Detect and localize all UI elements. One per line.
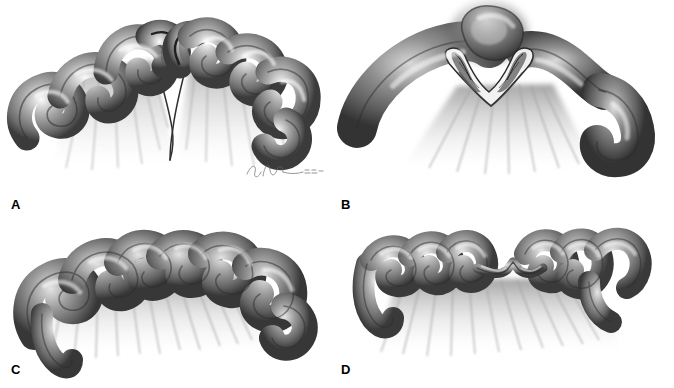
panel-d [337, 194, 674, 388]
illustration-panel-b [337, 0, 674, 194]
panel-label-a: A [11, 198, 20, 211]
panel-label-d: D [341, 363, 350, 376]
artist-signature [243, 158, 333, 184]
panel-label-c: C [11, 363, 20, 376]
illustration-panel-c [0, 194, 337, 388]
panel-c [0, 194, 337, 388]
panel-a [0, 0, 337, 194]
atresia-figure: A B C D [0, 0, 674, 388]
panel-label-b: B [341, 198, 350, 211]
illustration-panel-d [337, 194, 674, 388]
panel-b [337, 0, 674, 194]
